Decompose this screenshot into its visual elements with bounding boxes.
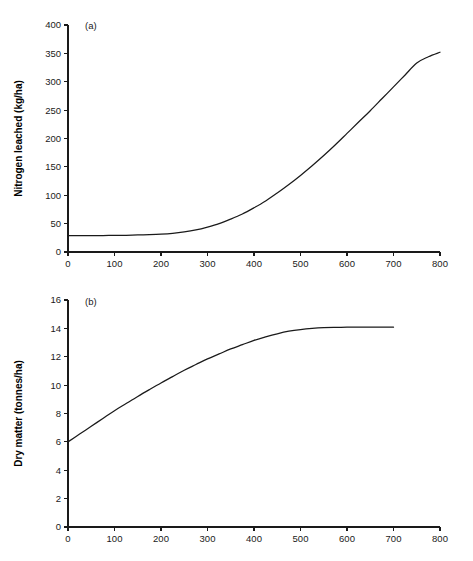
data-curve-0 [68,52,440,235]
y-tick-label-1-0: 0 [56,521,61,532]
y-axis-title-0: Nitrogen leached (kg/ha) [13,80,24,197]
x-tick-label-0-5: 500 [293,258,309,269]
x-tick-label-0-1: 100 [107,258,123,269]
x-tick-label-1-1: 100 [107,533,123,544]
y-tick-label-0-0: 0 [56,246,61,257]
y-tick-label-1-8: 16 [50,294,61,305]
chart-b-svg: 02468101214160100200300400500600700800Dr… [0,280,473,561]
panel-tag-1: (b) [85,296,97,307]
x-tick-label-1-0: 0 [65,533,70,544]
figure-two-panel-line-charts: 0501001502002503003504000100200300400500… [0,0,473,561]
y-tick-label-0-2: 100 [45,190,61,201]
y-axis-title-1: Dry matter (tonnes/ha) [13,360,24,467]
x-tick-label-0-6: 600 [339,258,355,269]
y-tick-label-0-6: 300 [45,76,61,87]
x-tick-label-1-8: 800 [432,533,448,544]
x-tick-label-0-2: 200 [153,258,169,269]
y-tick-label-1-1: 2 [56,493,61,504]
x-tick-label-1-2: 200 [153,533,169,544]
x-tick-label-1-5: 500 [293,533,309,544]
x-tick-label-1-4: 400 [246,533,262,544]
panel-a-nitrogen-leached: 0501001502002503003504000100200300400500… [0,0,473,280]
y-tick-label-0-5: 250 [45,105,61,116]
y-tick-label-0-4: 200 [45,133,61,144]
y-tick-label-0-8: 400 [45,19,61,30]
panel-b-dry-matter: 02468101214160100200300400500600700800Dr… [0,280,473,561]
y-tick-label-1-7: 14 [50,323,61,334]
x-tick-label-1-3: 300 [200,533,216,544]
y-tick-label-1-2: 4 [56,465,61,476]
y-tick-label-0-3: 150 [45,161,61,172]
x-tick-label-0-0: 0 [65,258,70,269]
x-tick-label-1-6: 600 [339,533,355,544]
y-tick-label-1-5: 10 [50,380,61,391]
y-tick-label-1-6: 12 [50,351,61,362]
data-curve-1 [68,327,394,442]
panel-tag-0: (a) [85,20,97,31]
y-tick-label-1-4: 8 [56,408,61,419]
y-tick-label-1-3: 6 [56,436,61,447]
y-tick-label-0-7: 350 [45,48,61,59]
x-tick-label-0-4: 400 [246,258,262,269]
x-tick-label-0-8: 800 [432,258,448,269]
y-tick-label-0-1: 50 [50,218,61,229]
x-tick-label-1-7: 700 [386,533,402,544]
x-tick-label-0-7: 700 [386,258,402,269]
x-tick-label-0-3: 300 [200,258,216,269]
chart-a-svg: 0501001502002503003504000100200300400500… [0,0,473,280]
